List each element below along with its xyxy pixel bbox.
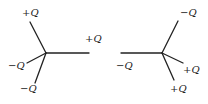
right-configuration: −Q −Q +Q +Q [116,7,200,94]
charge-label: −Q [20,83,37,94]
charge-label: +Q [85,33,102,44]
arm-up-right [162,21,178,53]
charge-label: −Q [180,7,197,18]
arm-down [162,53,174,80]
charge-label: +Q [183,64,200,75]
charge-label: −Q [8,60,25,71]
charge-label: −Q [116,60,133,71]
left-configuration: +Q +Q −Q −Q [8,7,102,94]
charge-label: +Q [170,83,187,94]
charge-diagram: +Q +Q −Q −Q −Q −Q +Q +Q [0,0,208,104]
charge-label: +Q [22,7,39,18]
arm-up-left [30,22,46,53]
